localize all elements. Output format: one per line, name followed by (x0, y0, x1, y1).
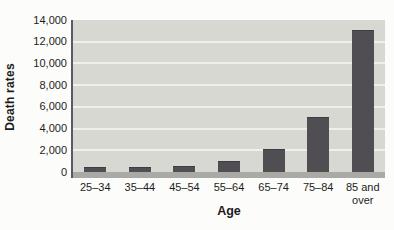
y-tick-label: 12,000 (14, 35, 67, 48)
gridline (73, 106, 385, 108)
gridline (73, 149, 385, 151)
y-tick-label: 8,000 (14, 79, 67, 92)
y-tick-label: 2,000 (14, 144, 67, 157)
bar (307, 117, 329, 172)
gridline (73, 62, 385, 64)
x-axis-baseline (73, 172, 385, 178)
y-tick-label: 14,000 (14, 14, 67, 27)
death-rates-by-age-chart: Death rates 02,0004,0006,0008,00010,0001… (0, 0, 394, 230)
gridline (73, 84, 385, 86)
y-tick-label: 6,000 (14, 100, 67, 113)
bar (352, 30, 374, 172)
x-axis-title: Age (73, 204, 385, 218)
y-tick-label: 10,000 (14, 57, 67, 70)
bar (263, 149, 285, 172)
bar (218, 161, 240, 172)
gridline (73, 128, 385, 130)
y-tick-label: 0 (14, 166, 67, 179)
gridline (73, 41, 385, 43)
y-tick-label: 4,000 (14, 122, 67, 135)
plot-area (73, 20, 385, 172)
